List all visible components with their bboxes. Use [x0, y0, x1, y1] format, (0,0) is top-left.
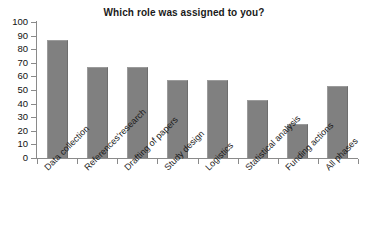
y-axis-tick-label: 0 [0, 153, 28, 163]
y-axis-tick-label: 30 [0, 112, 28, 122]
bar [47, 40, 68, 158]
y-axis-tick [31, 22, 36, 23]
y-axis-tick-label: 10 [0, 139, 28, 149]
x-axis-tick [358, 159, 359, 164]
chart-title: Which role was assigned to you? [0, 7, 368, 18]
x-axis-tick [37, 159, 38, 164]
x-axis-tick [318, 159, 319, 164]
x-axis-tick [278, 159, 279, 164]
x-axis-tick [117, 159, 118, 164]
y-axis-tick [31, 90, 36, 91]
y-axis-tick [31, 158, 36, 159]
y-axis-tick-label: 50 [0, 85, 28, 95]
y-axis-tick [31, 63, 36, 64]
y-axis-tick-label: 80 [0, 44, 28, 54]
y-axis-tick [31, 131, 36, 132]
y-axis-tick [31, 117, 36, 118]
y-axis-tick [31, 36, 36, 37]
y-axis-tick [31, 76, 36, 77]
x-axis-tick [198, 159, 199, 164]
y-axis-tick-label: 100 [0, 17, 28, 27]
y-axis-tick-label: 90 [0, 31, 28, 41]
y-axis-tick [31, 49, 36, 50]
x-axis-tick [77, 159, 78, 164]
y-axis-tick-label: 70 [0, 58, 28, 68]
y-axis-tick-label: 20 [0, 126, 28, 136]
chart-page: Which role was assigned to you? 01020304… [0, 0, 368, 248]
x-axis-tick [238, 159, 239, 164]
y-axis-tick [31, 144, 36, 145]
y-axis-tick-label: 60 [0, 71, 28, 81]
y-axis-tick [31, 104, 36, 105]
x-axis-tick [157, 159, 158, 164]
y-axis-tick-label: 40 [0, 99, 28, 109]
